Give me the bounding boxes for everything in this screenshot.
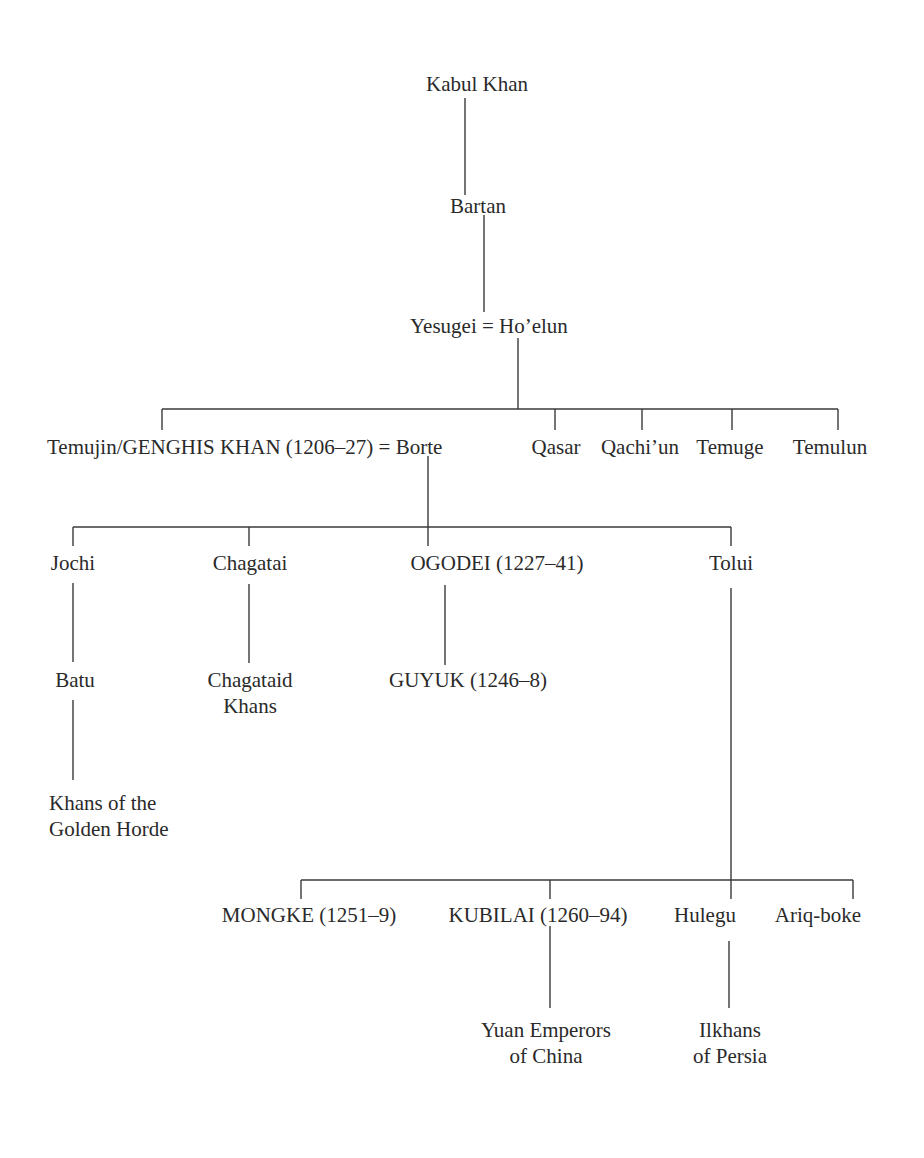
node-kubilai: KUBILAI (1260–94) bbox=[448, 902, 627, 928]
node-qachiun: Qachi’un bbox=[601, 434, 679, 460]
node-kabul-khan: Kabul Khan bbox=[426, 71, 528, 97]
node-hulegu: Hulegu bbox=[674, 902, 736, 928]
node-bartan: Bartan bbox=[450, 193, 506, 219]
node-chagataid-khans: Chagataid Khans bbox=[207, 667, 292, 719]
node-yesugei-hoelun: Yesugei = Ho’elun bbox=[410, 313, 568, 339]
node-chagatai: Chagatai bbox=[213, 550, 288, 576]
node-tolui: Tolui bbox=[709, 550, 753, 576]
node-batu: Batu bbox=[55, 667, 95, 693]
tree-connector-lines bbox=[0, 0, 924, 1158]
node-golden-horde: Khans of the Golden Horde bbox=[49, 790, 169, 842]
ilkhans-line1: Ilkhans bbox=[693, 1017, 767, 1043]
yuan-line2: of China bbox=[481, 1043, 611, 1069]
golden-horde-line1: Khans of the bbox=[49, 790, 169, 816]
golden-horde-line2: Golden Horde bbox=[49, 816, 169, 842]
yuan-line1: Yuan Emperors bbox=[481, 1017, 611, 1043]
node-ilkhans: Ilkhans of Persia bbox=[693, 1017, 767, 1069]
node-ariq-boke: Ariq-boke bbox=[775, 902, 861, 928]
ilkhans-line2: of Persia bbox=[693, 1043, 767, 1069]
node-temulun: Temulun bbox=[793, 434, 867, 460]
node-qasar: Qasar bbox=[532, 434, 581, 460]
node-temuge: Temuge bbox=[696, 434, 763, 460]
node-genghis-khan-borte: Temujin/GENGHIS KHAN (1206–27) = Borte bbox=[47, 434, 442, 460]
node-mongke: MONGKE (1251–9) bbox=[222, 902, 396, 928]
node-guyuk: GUYUK (1246–8) bbox=[389, 667, 547, 693]
chagataid-khans-line1: Chagataid bbox=[207, 667, 292, 693]
node-jochi: Jochi bbox=[51, 550, 95, 576]
node-yuan-emperors: Yuan Emperors of China bbox=[481, 1017, 611, 1069]
node-ogodei: OGODEI (1227–41) bbox=[410, 550, 583, 576]
chagataid-khans-line2: Khans bbox=[207, 693, 292, 719]
